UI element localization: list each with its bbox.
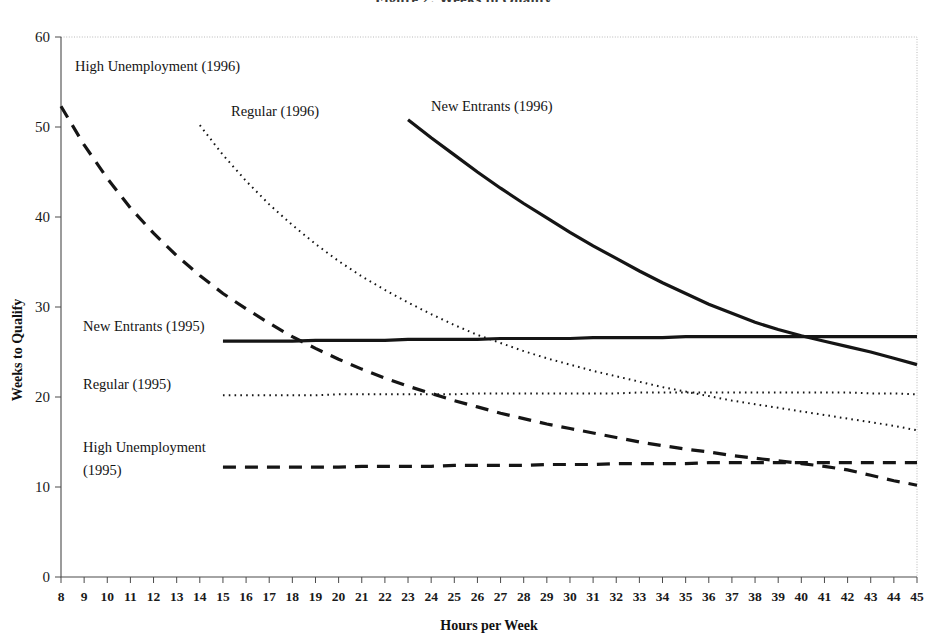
x-tick-label: 21 [355, 589, 369, 604]
ann-regular-1996: Regular (1996) [231, 103, 319, 120]
ann-high-unemp-1995-line1: High Unemployment [83, 439, 206, 455]
x-tick-label: 38 [748, 589, 762, 604]
chart-figure: Figure 2: Weeks to Qualify 0102030405060… [0, 0, 927, 638]
x-tick-label: 9 [81, 589, 88, 604]
x-tick-label: 22 [378, 589, 392, 604]
y-tick-label: 20 [35, 389, 50, 405]
x-tick-label: 16 [239, 589, 253, 604]
x-tick-label: 24 [424, 589, 438, 604]
series-annotations: High Unemployment (1996)Regular (1996)Ne… [75, 58, 553, 479]
y-tick-label: 50 [35, 119, 50, 135]
plot-frame [61, 37, 917, 577]
x-tick-label: 39 [771, 589, 785, 604]
x-tick-label: 26 [471, 589, 485, 604]
chart-plot-area: 0102030405060 89101112131415161718192021… [0, 0, 927, 638]
series-line-regular-1995 [223, 393, 917, 396]
x-tick-label: 17 [262, 589, 276, 604]
x-tick-label: 30 [563, 589, 577, 604]
x-tick-label: 25 [448, 589, 462, 604]
x-tick-label: 15 [216, 589, 230, 604]
ann-regular-1995: Regular (1995) [83, 376, 171, 393]
x-tick-label: 13 [170, 589, 184, 604]
x-tick-label: 32 [609, 589, 623, 604]
x-tick-label: 8 [58, 589, 65, 604]
x-tick-label: 18 [286, 589, 300, 604]
x-tick-label: 23 [401, 589, 415, 604]
series-line-new-entrants-1996 [408, 120, 917, 365]
x-tick-label: 41 [818, 589, 832, 604]
ann-new-entrants-1996: New Entrants (1996) [431, 98, 553, 115]
x-tick-label: 27 [494, 589, 508, 604]
x-tick-label: 11 [124, 589, 137, 604]
ann-new-entrants-1995: New Entrants (1995) [83, 318, 205, 335]
x-tick-label: 33 [633, 589, 647, 604]
y-axis-title: Weeks to Qualify [10, 299, 25, 402]
y-tick-label: 10 [35, 479, 50, 495]
y-tick-label: 30 [35, 299, 50, 315]
y-tick-label: 0 [43, 569, 51, 585]
x-tick-label: 34 [656, 589, 670, 604]
series-line-high-unemployment-1996 [61, 106, 917, 485]
x-tick-label: 19 [309, 589, 323, 604]
x-tick-label: 35 [679, 589, 693, 604]
x-axis-title: Hours per Week [440, 618, 538, 633]
series-line-regular-1996 [200, 125, 917, 430]
x-tick-label: 20 [332, 589, 346, 604]
data-series-group [61, 106, 917, 485]
x-tick-label: 14 [193, 589, 207, 604]
axis-ticks [55, 37, 917, 583]
y-axis-tick-labels: 0102030405060 [35, 29, 50, 585]
y-tick-label: 40 [35, 209, 50, 225]
x-tick-label: 10 [101, 589, 115, 604]
x-tick-label: 28 [517, 589, 531, 604]
x-tick-label: 43 [864, 589, 878, 604]
x-tick-label: 37 [725, 589, 739, 604]
x-tick-label: 42 [841, 589, 855, 604]
x-tick-label: 45 [910, 589, 924, 604]
x-tick-label: 44 [887, 589, 901, 604]
y-tick-label: 60 [35, 29, 50, 45]
x-tick-label: 31 [586, 589, 600, 604]
x-tick-label: 29 [540, 589, 554, 604]
x-tick-label: 12 [147, 589, 161, 604]
ann-high-unemp-1996: High Unemployment (1996) [75, 58, 240, 75]
ann-high-unemp-1995-line2: (1995) [83, 462, 122, 479]
x-tick-label: 40 [795, 589, 809, 604]
x-axis-tick-labels: 8910111213141516171819202122232425262728… [58, 589, 924, 604]
x-tick-label: 36 [702, 589, 716, 604]
